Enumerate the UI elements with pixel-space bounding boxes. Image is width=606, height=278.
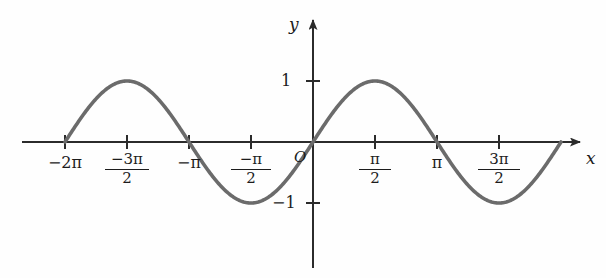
fraction-numerator: 3π — [478, 152, 520, 169]
origin-label: O — [294, 150, 306, 165]
fraction-numerator: −3π — [105, 152, 149, 169]
x-tick-label-neg-pi: −π — [168, 155, 210, 171]
plot-canvas — [0, 0, 606, 278]
x-tick-label-neg-2pi: −2π — [41, 155, 89, 171]
sine-graph-figure: y x O 1 −1 −2π −π π −3π 2 −π 2 π 2 3π 2 — [0, 0, 606, 278]
fraction-denominator: 2 — [231, 170, 271, 187]
x-tick-label-neg-pi-over-2: −π 2 — [231, 152, 271, 187]
y-tick-label-1: 1 — [281, 73, 291, 89]
x-tick-label-neg-3pi-over-2: −3π 2 — [105, 152, 149, 187]
x-axis-label: x — [586, 150, 596, 167]
fraction-numerator: π — [359, 152, 391, 169]
fraction-denominator: 2 — [359, 170, 391, 187]
fraction-denominator: 2 — [478, 170, 520, 187]
x-tick-label-pi-over-2: π 2 — [359, 152, 391, 187]
y-tick-label-neg-1: −1 — [272, 195, 296, 211]
fraction-numerator: −π — [231, 152, 271, 169]
fraction-denominator: 2 — [105, 170, 149, 187]
x-tick-label-3pi-over-2: 3π 2 — [478, 152, 520, 187]
x-tick-label-pi: π — [419, 155, 455, 171]
y-axis-label: y — [289, 16, 299, 33]
